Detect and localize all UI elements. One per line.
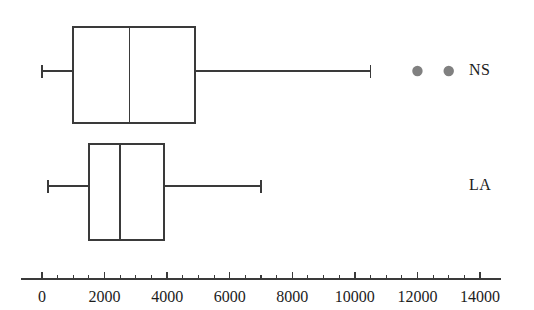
x-tick-label-0: 0	[38, 288, 46, 306]
plot-canvas	[0, 0, 534, 310]
x-tick-label-2000: 2000	[89, 288, 121, 306]
box-plot-figure: NS LA 02000400060008000100001200014000	[0, 0, 534, 310]
x-tick-label-12000: 12000	[397, 288, 437, 306]
x-tick-label-14000: 14000	[460, 288, 500, 306]
x-tick-label-6000: 6000	[214, 288, 246, 306]
box-ns	[73, 27, 195, 123]
outlier-point-ns-2	[444, 66, 454, 76]
box-la	[89, 144, 164, 240]
x-tick-label-8000: 8000	[276, 288, 308, 306]
group-label-la: LA	[469, 176, 491, 194]
x-tick-label-10000: 10000	[335, 288, 375, 306]
x-tick-label-4000: 4000	[151, 288, 183, 306]
outlier-point-ns-1	[412, 66, 422, 76]
group-label-ns: NS	[469, 61, 490, 79]
